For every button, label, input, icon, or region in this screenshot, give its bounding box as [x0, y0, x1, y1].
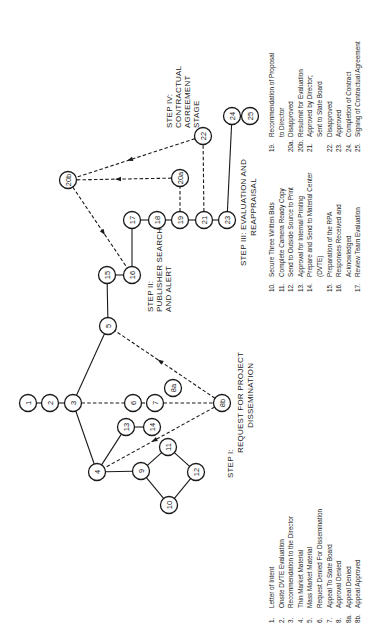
legend-number: 22. [326, 143, 333, 152]
step-2-label: STEP II: PUBLISHER SEARCH AND ALERT [146, 228, 173, 312]
node-label: 11 [164, 443, 173, 451]
node-10: 10 [161, 497, 178, 514]
edge-3-5 [77, 334, 105, 396]
node-12: 12 [188, 464, 205, 481]
node-17: 17 [124, 212, 141, 229]
node-label: 20a [176, 171, 185, 184]
node-22: 22 [195, 128, 212, 145]
node-7: 7 [147, 395, 164, 412]
legend-number: 17. [354, 283, 361, 292]
legend-number: 7. [326, 617, 333, 623]
legend-number: 1. [268, 617, 275, 623]
node-18: 18 [149, 212, 166, 229]
node-label: 18 [153, 216, 162, 224]
legend-steps-1-8b: 1.Letter of Intent2.Onsite DVTE Evaluati… [268, 508, 362, 623]
node-2: 2 [42, 395, 59, 412]
legend-text: Recommendation to the Director [287, 515, 294, 608]
node-label: 13 [122, 423, 131, 431]
step-1-line-2: REQUEST FOR PROJECT [236, 352, 245, 453]
legend-text: Thin Market Material [297, 550, 304, 608]
legend-text: Mass Market Material [306, 547, 313, 608]
edge-20a-20b [76, 178, 171, 180]
legend-text: Appeal Approved [354, 559, 362, 608]
node-25: 25 [242, 108, 259, 125]
node-label: 9 [137, 469, 146, 473]
edge-8b-4 [104, 407, 214, 468]
node-label: 10 [165, 501, 174, 509]
legend-text: Prepare and Send to Material Center [306, 172, 314, 277]
legend-number: 25. [354, 143, 361, 152]
legend-number: 8. [335, 617, 342, 623]
legend-steps-10-17: 10.Secure Three Written Bids11.Complete … [268, 172, 361, 292]
node-label: 2 [46, 401, 55, 405]
legend-number: 12. [287, 283, 294, 292]
legend-text: Sent to State Board [316, 81, 323, 137]
node-label: 22 [199, 132, 208, 140]
legend-text: Preparation of the RPA [326, 211, 334, 277]
legend-number: 19. [268, 143, 275, 152]
node-label: 14 [148, 423, 157, 431]
edge-11-12 [174, 453, 189, 467]
node-14: 14 [144, 419, 161, 436]
legend-number: 23. [335, 143, 342, 152]
node-label: 6 [129, 401, 138, 405]
arrowhead-icon [152, 437, 158, 442]
step-4-line-1: STEP IV: [165, 94, 174, 128]
node-label: 8a [169, 383, 178, 392]
node-21: 21 [196, 212, 213, 229]
legend-text: Approved [335, 109, 343, 137]
legend-text: Responses Received and [335, 204, 343, 277]
legend-number: 24. [345, 143, 352, 152]
node-label: 25 [246, 112, 255, 120]
step-4-line-3: AGREEMENT [183, 76, 192, 128]
edge-9-10 [146, 478, 163, 499]
node-19: 19 [172, 212, 189, 229]
edge-10-12 [174, 479, 190, 499]
legend-text: Acknowledged [345, 235, 353, 277]
step-2-line-3: AND ALERT [164, 266, 173, 312]
legend-number: 14. [306, 283, 313, 292]
legend-steps-19-25: 19.Recommendation of Proposalto Director… [268, 41, 362, 152]
arrowhead-icon [127, 157, 133, 161]
legend-number: 3. [287, 617, 294, 623]
step-4-line-2: CONTRACTUAL [174, 65, 183, 128]
legend-text: Recommendation of Proposal [268, 53, 276, 137]
node-4: 4 [89, 464, 106, 481]
node-11: 11 [160, 439, 177, 456]
legend-text: Disapproved [326, 101, 334, 137]
legend-text: to Director [278, 107, 285, 137]
legend-number: 8a. [345, 614, 352, 623]
legend-text: Send to Outside Source to Print [287, 187, 294, 277]
node-label: 4 [93, 470, 102, 474]
legend-text: Signing of Contractual Agreement [354, 41, 362, 137]
node-label: 21 [200, 216, 209, 224]
edge-4-9 [105, 471, 132, 472]
legend-text: Onsite DVTE Evaluation [278, 539, 285, 608]
legend-number: 8b. [354, 614, 361, 623]
legend-number: 20b. [297, 139, 304, 152]
node-15: 15 [99, 267, 116, 284]
diagram-nodes: 12345678a8b91011121314151617181920a20b21… [20, 108, 259, 514]
node-20b: 20b [60, 172, 77, 189]
step-4-label: STEP IV: CONTRACTUAL AGREEMENT STAGE [165, 65, 201, 128]
flow-diagram: 12345678a8b91011121314151617181920a20b21… [0, 0, 372, 637]
legend-number: 5. [306, 617, 313, 623]
edge-21-22 [203, 144, 204, 211]
node-9: 9 [133, 463, 150, 480]
arrowhead-icon [100, 229, 105, 235]
legend-number: 13. [297, 283, 304, 292]
legend-number: 11. [278, 283, 285, 292]
step-3-label: STEP III: EVALUATION AND REAPPRAISAL [239, 159, 258, 266]
node-label: 15 [103, 271, 112, 279]
edge-20b-16 [73, 187, 128, 268]
edge-3-4 [76, 411, 94, 464]
arrowhead-icon [115, 177, 121, 181]
legend-number: 21. [306, 143, 313, 152]
step-4-line-4: STAGE [192, 100, 201, 128]
node-label: 8b [218, 399, 227, 407]
node-label: 23 [223, 216, 232, 224]
node-6: 6 [125, 395, 142, 412]
node-label: 5 [104, 324, 113, 328]
legend-number: 4. [297, 617, 304, 623]
legend-text: Secure Three Written Bids [268, 202, 275, 277]
